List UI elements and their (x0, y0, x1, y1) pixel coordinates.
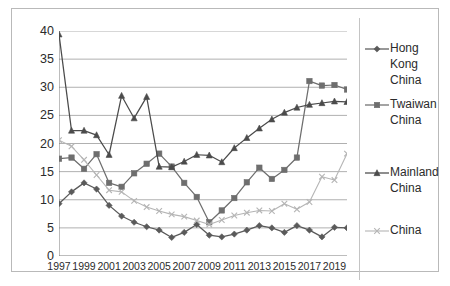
legend-label: China (390, 223, 421, 239)
data-point-square (81, 166, 86, 171)
data-point-diamond (269, 225, 275, 231)
data-point-diamond (231, 231, 237, 237)
data-point-diamond (144, 224, 150, 230)
series-line (59, 140, 347, 224)
data-point-square (144, 161, 149, 166)
legend-marker-square-icon (364, 98, 390, 112)
data-point-square (257, 165, 262, 170)
data-point-square (344, 87, 347, 92)
data-point-cross (282, 201, 288, 207)
data-point-square (182, 180, 187, 185)
y-axis-tick-label: 30 (28, 81, 54, 94)
x-axis-tick-label: 2019 (323, 261, 346, 272)
x-axis-tick-label: 2013 (248, 261, 271, 272)
y-axis-tick-label: 25 (28, 109, 54, 122)
x-axis-tick-label: 2001 (97, 261, 120, 272)
data-point-square (232, 195, 237, 200)
x-axis-tick-label: 2017 (298, 261, 321, 272)
x-axis-tick-label: 2005 (147, 261, 170, 272)
data-point-triangle (119, 92, 125, 98)
data-point-diamond (181, 229, 187, 235)
legend-entry[interactable]: Hong Kong China (364, 41, 448, 88)
data-point-square (119, 184, 124, 189)
chart-screenshot: 0510152025303540 19971999200120032005200… (0, 0, 450, 286)
data-point-square (219, 208, 224, 213)
data-point-cross (69, 144, 75, 150)
data-point-triangle (256, 125, 262, 131)
data-point-cross (131, 198, 137, 204)
data-point-square (59, 156, 62, 161)
plot-area (59, 31, 347, 256)
series-line (59, 34, 347, 167)
y-axis-tick-label: 40 (28, 25, 54, 38)
legend-entry[interactable]: Mainland China (364, 165, 448, 197)
x-axis-tick-label: 1997 (47, 261, 70, 272)
x-axis-tick-label: 2009 (198, 261, 221, 272)
data-point-diamond (131, 219, 137, 225)
data-point-square (294, 155, 299, 160)
data-point-cross (219, 217, 225, 223)
data-point-diamond (344, 225, 347, 231)
data-point-cross (144, 204, 150, 210)
legend-label: Hong Kong China (390, 41, 448, 88)
series-line (59, 81, 347, 222)
legend-marker-cross-icon (364, 224, 390, 238)
series-china (59, 137, 347, 227)
x-axis-tick-label: 2015 (273, 261, 296, 272)
data-point-triangle (181, 158, 187, 164)
data-point-cross (81, 157, 87, 163)
legend-entry[interactable]: China (364, 223, 448, 239)
series-twaiwan-china (59, 78, 347, 225)
x-axis-tick-label: 1999 (72, 261, 95, 272)
data-point-diamond (374, 46, 380, 52)
y-axis-tick-label: 35 (28, 53, 54, 66)
legend-marker-diamond-icon (364, 42, 390, 56)
data-point-cross (294, 207, 300, 213)
data-point-triangle (59, 31, 62, 37)
data-point-square (319, 83, 324, 88)
data-point-triangle (269, 116, 275, 122)
legend-entry[interactable]: Twaiwan China (364, 97, 448, 129)
data-point-square (282, 167, 287, 172)
legend-divider (359, 18, 360, 280)
data-point-diamond (219, 234, 225, 240)
data-point-square (269, 176, 274, 181)
data-point-square (244, 180, 249, 185)
x-axis-tick-label: 2007 (173, 261, 196, 272)
data-point-cross (94, 172, 100, 178)
y-axis-tick-label: 20 (28, 137, 54, 150)
x-axis-tick-label: 2011 (223, 261, 246, 272)
y-axis-tick-label: 15 (28, 165, 54, 178)
chart-legend: Hong Kong ChinaTwaiwan ChinaMainland Chi… (364, 25, 448, 257)
line-chart-svg (59, 31, 347, 256)
chart-frame: 0510152025303540 19971999200120032005200… (11, 8, 439, 272)
data-point-square (194, 194, 199, 199)
data-point-square (307, 78, 312, 83)
y-axis-tick-label: 10 (28, 194, 54, 207)
data-point-square (332, 82, 337, 87)
data-point-square (94, 151, 99, 156)
legend-marker-triangle-icon (364, 166, 390, 180)
legend-label: Mainland China (390, 165, 448, 197)
data-point-square (106, 180, 111, 185)
y-axis-tick-label: 5 (28, 222, 54, 235)
data-point-square (69, 155, 74, 160)
x-axis-tick-label: 2003 (122, 261, 145, 272)
x-axis-tick-labels: 1997199920012003200520072009201120132015… (59, 261, 347, 277)
data-point-triangle (244, 135, 250, 141)
data-point-diamond (281, 229, 287, 235)
legend-label: Twaiwan China (390, 97, 448, 129)
data-point-diamond (169, 234, 175, 240)
data-point-square (131, 171, 136, 176)
data-point-triangle (144, 94, 150, 100)
y-axis-tick-labels: 0510152025303540 (24, 31, 54, 256)
data-point-square (374, 102, 379, 107)
series-mainland-china (59, 31, 347, 170)
